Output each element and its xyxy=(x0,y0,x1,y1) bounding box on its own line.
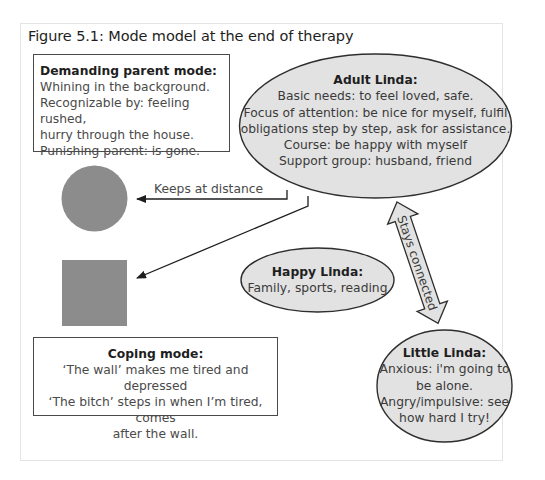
little-linda-line: how hard I try! xyxy=(377,410,512,426)
coping-mode-header: Coping mode: xyxy=(38,346,273,362)
keeps-at-distance-label: Keeps at distance xyxy=(154,182,263,196)
happy-linda-text: Happy Linda: Family, sports, reading xyxy=(241,264,394,297)
adult-linda-line: Course: be happy with myself xyxy=(239,137,512,153)
coping-mode-line: ‘The bitch’ steps in when I’m tired, com… xyxy=(38,394,273,426)
happy-linda-header: Happy Linda: xyxy=(241,264,394,280)
coping-mode-line: ‘The wall’ makes me tired and depressed xyxy=(38,362,273,394)
little-linda-line: Angry/impulsive: see xyxy=(377,394,512,410)
adult-linda-header: Adult Linda: xyxy=(239,72,512,88)
coping-mode-line: after the wall. xyxy=(38,426,273,442)
adult-linda-text: Adult Linda: Basic needs: to feel loved,… xyxy=(239,72,512,170)
adult-linda-line: Focus of attention: be nice for myself, … xyxy=(239,105,512,121)
adult-linda-line: Basic needs: to feel loved, safe. xyxy=(239,88,512,104)
punishing-parent-circle xyxy=(62,166,128,232)
adult-linda-line: obligations step by step, ask for assist… xyxy=(239,121,512,137)
coping-mode-box: Coping mode: ‘The wall’ makes me tired a… xyxy=(33,337,278,416)
adult-linda-line: Support group: husband, friend xyxy=(239,153,512,169)
happy-linda-line: Family, sports, reading xyxy=(241,280,394,296)
little-linda-text: Little Linda: Anxious: i'm going to be a… xyxy=(377,345,512,426)
little-linda-line: be alone. xyxy=(377,378,512,394)
little-linda-line: Anxious: i'm going to xyxy=(377,361,512,377)
little-linda-header: Little Linda: xyxy=(377,345,512,361)
coping-square xyxy=(62,260,127,326)
